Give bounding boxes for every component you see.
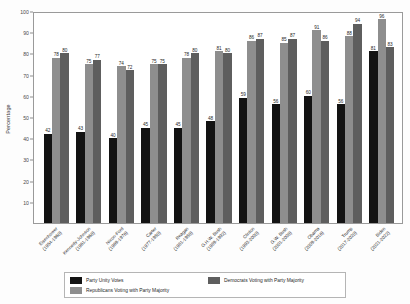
y-axis-tick-label: 60 bbox=[23, 94, 29, 100]
legend-swatch-icon bbox=[208, 277, 220, 284]
bar[interactable]: 56 bbox=[272, 104, 280, 223]
bar[interactable]: 83 bbox=[386, 47, 394, 223]
bar[interactable]: 88 bbox=[345, 36, 353, 223]
bar-value-label: 77 bbox=[95, 54, 100, 59]
bar[interactable]: 45 bbox=[174, 128, 182, 223]
bar[interactable]: 60 bbox=[304, 96, 312, 223]
bar-slot: 86 bbox=[247, 13, 255, 223]
bar[interactable]: 56 bbox=[337, 104, 345, 223]
legend-item-republicans-voting-with-party-majority: Republicans Voting with Party Majority bbox=[70, 286, 202, 295]
bar[interactable]: 78 bbox=[52, 58, 60, 223]
bar-value-label: 45 bbox=[176, 122, 181, 127]
bar-value-label: 87 bbox=[290, 33, 295, 38]
bar-slot: 78 bbox=[182, 13, 190, 223]
x-axis-labels: Eisenhower(1954-1960)Kennedy-Johnson(196… bbox=[33, 224, 403, 272]
bar[interactable]: 94 bbox=[353, 24, 361, 223]
bar-slot: 74 bbox=[117, 13, 125, 223]
bar[interactable]: 48 bbox=[206, 121, 214, 223]
bar-value-label: 45 bbox=[143, 122, 148, 127]
bar-group: 457575 bbox=[138, 13, 171, 223]
legend-label: Party Unity Votes bbox=[86, 278, 124, 283]
bar[interactable]: 87 bbox=[288, 39, 296, 223]
bar[interactable]: 75 bbox=[85, 64, 93, 223]
bar-slot: 87 bbox=[256, 13, 264, 223]
bar[interactable]: 96 bbox=[378, 19, 386, 223]
bar-value-label: 81 bbox=[371, 46, 376, 51]
bar[interactable]: 87 bbox=[256, 39, 264, 223]
bar[interactable]: 81 bbox=[215, 51, 223, 223]
bar[interactable]: 42 bbox=[44, 134, 52, 223]
x-axis-label-cell: Biden(2021-2022) bbox=[366, 224, 399, 272]
bar-value-label: 87 bbox=[257, 33, 262, 38]
bar-value-label: 59 bbox=[241, 92, 246, 97]
bar[interactable]: 86 bbox=[321, 41, 329, 223]
bar[interactable]: 72 bbox=[126, 70, 134, 223]
bar-value-label: 74 bbox=[119, 61, 124, 66]
bar-slot: 43 bbox=[76, 13, 84, 223]
bar-value-label: 75 bbox=[160, 59, 165, 64]
bar[interactable]: 59 bbox=[239, 98, 247, 223]
bar-value-label: 78 bbox=[184, 52, 189, 57]
bar-slot: 40 bbox=[109, 13, 117, 223]
bar-slot: 80 bbox=[60, 13, 68, 223]
legend-item-democrats-voting-with-party-majority: Democrats Voting with Party Majority bbox=[208, 276, 340, 285]
bar-value-label: 56 bbox=[273, 99, 278, 104]
legend-item-party-unity-votes: Party Unity Votes bbox=[70, 276, 202, 285]
bar-slot: 42 bbox=[44, 13, 52, 223]
x-axis-label: Clinton(1993-2000) bbox=[234, 226, 260, 252]
bar-value-label: 56 bbox=[338, 99, 343, 104]
bar[interactable]: 80 bbox=[60, 53, 68, 223]
bar-group: 598687 bbox=[235, 13, 268, 223]
bar[interactable]: 91 bbox=[312, 30, 320, 223]
y-axis-tick-label: 80 bbox=[23, 51, 29, 57]
bar-value-label: 86 bbox=[249, 35, 254, 40]
bar-value-label: 48 bbox=[208, 116, 213, 121]
x-axis-label-cell: Carter(1977-1980) bbox=[137, 224, 170, 272]
bar[interactable]: 77 bbox=[93, 60, 101, 223]
bar[interactable]: 43 bbox=[76, 132, 84, 223]
bar[interactable]: 86 bbox=[247, 41, 255, 223]
y-axis-tick-label: 10 bbox=[23, 200, 29, 206]
bar-slot: 80 bbox=[191, 13, 199, 223]
bar-slot: 91 bbox=[312, 13, 320, 223]
x-axis-label: Eisenhower(1954-1960) bbox=[38, 226, 64, 252]
bar-group: 609186 bbox=[300, 13, 333, 223]
bar[interactable]: 75 bbox=[158, 64, 166, 223]
x-axis-label: Nixon-Ford(1969-1976) bbox=[103, 226, 129, 252]
bar-slot: 48 bbox=[206, 13, 214, 223]
bar-slot: 86 bbox=[321, 13, 329, 223]
bar[interactable]: 78 bbox=[182, 58, 190, 223]
bar-value-label: 60 bbox=[306, 90, 311, 95]
bar-value-label: 78 bbox=[54, 52, 59, 57]
bar[interactable]: 81 bbox=[369, 51, 377, 223]
bar-slot: 83 bbox=[386, 13, 394, 223]
bar-slot: 81 bbox=[215, 13, 223, 223]
legend-label: Democrats Voting with Party Majority bbox=[224, 278, 304, 283]
plot-area: 4278804375774074724575754578804881805986… bbox=[33, 12, 403, 224]
legend-swatch-icon bbox=[70, 277, 82, 284]
bar-value-label: 42 bbox=[45, 128, 50, 133]
bar[interactable]: 75 bbox=[150, 64, 158, 223]
bar-group: 427880 bbox=[40, 13, 73, 223]
bar[interactable]: 45 bbox=[141, 128, 149, 223]
y-axis-tick-label: 40 bbox=[23, 136, 29, 142]
bar[interactable]: 85 bbox=[280, 43, 288, 223]
bar[interactable]: 80 bbox=[223, 53, 231, 223]
bar-value-label: 80 bbox=[62, 48, 67, 53]
bar[interactable]: 40 bbox=[109, 138, 117, 223]
bar-slot: 56 bbox=[337, 13, 345, 223]
bar-value-label: 80 bbox=[225, 48, 230, 53]
bar-value-label: 40 bbox=[110, 133, 115, 138]
bar-group: 819683 bbox=[365, 13, 398, 223]
bar-slot: 81 bbox=[369, 13, 377, 223]
bar[interactable]: 80 bbox=[191, 53, 199, 223]
bar-slot: 88 bbox=[345, 13, 353, 223]
bar-value-label: 94 bbox=[355, 18, 360, 23]
chart-canvas: Percentage 102030405060708090100 4278804… bbox=[0, 0, 410, 304]
bar-value-label: 88 bbox=[347, 31, 352, 36]
x-axis-label: Reagan(1981-1988) bbox=[169, 226, 195, 252]
y-axis: Percentage 102030405060708090100 bbox=[0, 12, 33, 224]
bar-value-label: 43 bbox=[78, 126, 83, 131]
bar-group: 457880 bbox=[170, 13, 203, 223]
bar[interactable]: 74 bbox=[117, 66, 125, 223]
